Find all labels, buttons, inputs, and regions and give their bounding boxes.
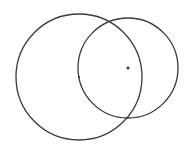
intersecting-circles-diagram: [0, 0, 191, 152]
large-circle-center: [78, 76, 80, 78]
small-circle-center: [127, 67, 130, 70]
